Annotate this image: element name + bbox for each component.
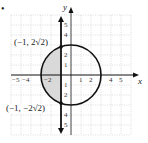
- point-label-top: (−1, 2√2): [14, 38, 48, 47]
- x-tick: 4: [109, 77, 113, 84]
- y-tick: 4: [64, 112, 68, 119]
- y-tick: 2: [64, 52, 68, 59]
- x-tick: 1: [79, 77, 83, 84]
- point-bottom: [59, 101, 63, 105]
- y-tick: 1: [64, 82, 68, 89]
- x-tick: −5: [12, 77, 19, 84]
- y-tick: 2: [64, 92, 68, 99]
- circle-diagram: [0, 0, 148, 143]
- y-tick: 5: [64, 22, 68, 29]
- y-axis-label: y: [63, 2, 67, 12]
- y-tick: 1: [64, 62, 68, 69]
- y-axis-arrow-icon: [69, 7, 74, 13]
- y-tick: 5: [64, 122, 68, 129]
- x-tick: 5: [119, 77, 123, 84]
- x-tick: 2: [89, 77, 93, 84]
- y-tick: 4: [64, 32, 68, 39]
- x-axis-label: x: [138, 76, 142, 86]
- point-top: [59, 45, 63, 49]
- x-tick: −4: [22, 77, 29, 84]
- point-label-bottom: (−1, −2√2): [6, 104, 45, 113]
- x-tick: −2: [44, 77, 51, 84]
